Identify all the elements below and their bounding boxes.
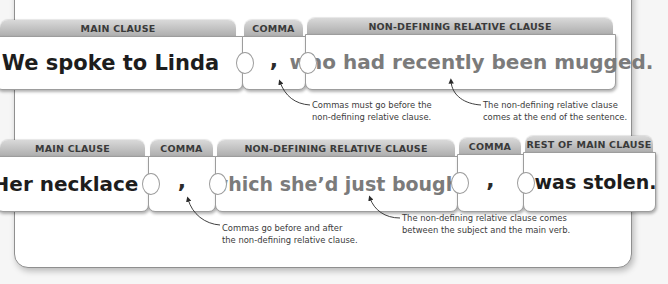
arrow-icon xyxy=(188,199,220,225)
annotation-arrows xyxy=(0,0,668,284)
arrow-icon xyxy=(370,198,400,218)
arrow-icon xyxy=(451,81,481,105)
arrow-icon xyxy=(280,82,310,105)
